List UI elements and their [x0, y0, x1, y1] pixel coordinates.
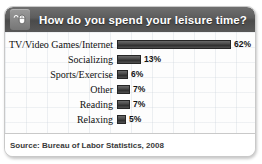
bar-category-label: Reading	[5, 100, 117, 110]
chart-plot-area: TV/Video Games/Internet 62% Socializing …	[5, 32, 255, 134]
bar-category-label: TV/Video Games/Internet	[5, 40, 117, 50]
bar-fill	[117, 40, 231, 49]
chart-row: Socializing 13%	[5, 52, 255, 67]
computer-mouse-icon	[10, 9, 30, 30]
bar-track: 62%	[117, 40, 255, 49]
bar-value-label: 7%	[133, 100, 145, 109]
bar-fill	[117, 70, 128, 79]
chart-row: Sports/Exercise 6%	[5, 67, 255, 82]
bar-track: 7%	[117, 100, 255, 109]
widget-titlebar: How do you spend your leisure time?	[5, 7, 255, 32]
bar-track: 6%	[117, 70, 255, 79]
bar-track: 5%	[117, 115, 255, 124]
bar-category-label: Relaxing	[5, 115, 117, 125]
bar-fill	[117, 55, 141, 64]
page-title: How do you spend your leisure time?	[39, 14, 247, 26]
bar-category-label: Sports/Exercise	[5, 70, 117, 80]
bar-value-label: 62%	[234, 40, 251, 49]
source-text: Source: Bureau of Labor Statistics, 2008	[10, 141, 164, 150]
bar-value-label: 7%	[133, 85, 145, 94]
chart-source-footer: Source: Bureau of Labor Statistics, 2008	[5, 133, 255, 156]
chart-row: Reading 7%	[5, 97, 255, 112]
bar-category-label: Other	[5, 85, 117, 95]
bar-fill	[117, 100, 130, 109]
bar-fill	[117, 85, 130, 94]
leisure-time-chart-widget: How do you spend your leisure time? TV/V…	[4, 6, 256, 157]
bar-value-label: 6%	[131, 70, 143, 79]
bar-fill	[117, 115, 126, 124]
bar-category-label: Socializing	[5, 55, 117, 65]
chart-row: Relaxing 5%	[5, 112, 255, 127]
chart-bar-rows: TV/Video Games/Internet 62% Socializing …	[5, 37, 255, 127]
chart-row: TV/Video Games/Internet 62%	[5, 37, 255, 52]
bar-value-label: 5%	[129, 115, 141, 124]
bar-track: 13%	[117, 55, 255, 64]
chart-row: Other 7%	[5, 82, 255, 97]
bar-value-label: 13%	[144, 55, 161, 64]
bar-track: 7%	[117, 85, 255, 94]
